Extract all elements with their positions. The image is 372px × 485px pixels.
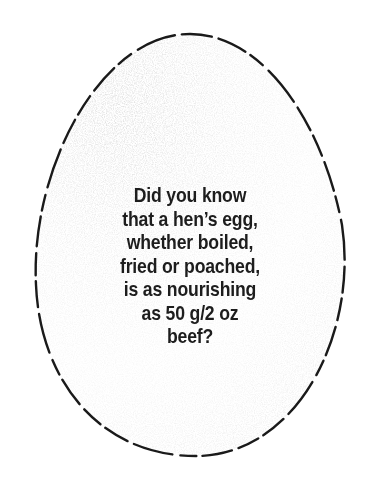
- fact-line: fried or poached,: [108, 254, 271, 278]
- fact-line: as 50 g/2 oz: [108, 301, 271, 325]
- fact-line: Did you know: [108, 183, 271, 207]
- fact-line: beef?: [108, 324, 271, 348]
- fact-line: is as nourishing: [108, 277, 271, 301]
- fact-line: whether boiled,: [108, 230, 271, 254]
- egg-illustration: Did you know that a hen’s egg, whether b…: [0, 0, 372, 485]
- egg-fact-text: Did you know that a hen’s egg, whether b…: [108, 183, 271, 348]
- fact-line: that a hen’s egg,: [108, 207, 271, 231]
